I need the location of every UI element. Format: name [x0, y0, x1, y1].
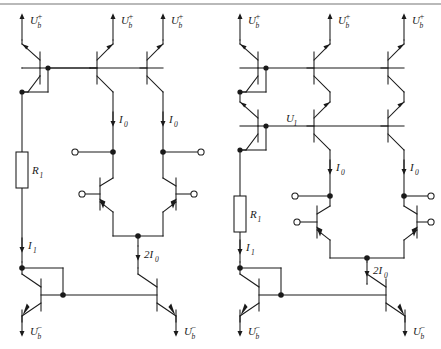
- svg-text:0: 0: [174, 120, 178, 129]
- svg-text:b: b: [256, 21, 260, 30]
- label-r1-left: R 1: [31, 164, 43, 180]
- label-ub-minus-1-left: U b −: [30, 322, 43, 341]
- npn-diffpair-right: [163, 152, 197, 236]
- svg-text:b: b: [256, 332, 260, 341]
- svg-text:R: R: [249, 208, 257, 220]
- svg-text:2I: 2I: [373, 264, 384, 276]
- diode-connection-left: [22, 68, 48, 92]
- svg-text:b: b: [38, 21, 42, 30]
- label-2i0-right: 2I 0: [373, 264, 388, 280]
- svg-text:+: +: [420, 11, 425, 21]
- pnp-output-right-left: [140, 40, 163, 152]
- label-ub-plus-3-right: U b +: [412, 11, 425, 30]
- label-u1-right: U 1: [286, 112, 297, 128]
- svg-text:b: b: [421, 332, 425, 341]
- svg-text:0: 0: [124, 120, 128, 129]
- svg-text:0: 0: [415, 168, 419, 177]
- svg-text:2I: 2I: [144, 248, 155, 260]
- label-2i0-left: 2I 0: [144, 248, 159, 264]
- pnp-cascode-mid-upper-right: [307, 40, 330, 102]
- label-ub-plus-3-left: U b +: [171, 11, 184, 30]
- svg-text:1: 1: [294, 119, 298, 128]
- circuit-diagram-svg: U b + U b + U b + R 1 I 0: [0, 0, 441, 349]
- label-ub-minus-2-left: U b −: [184, 322, 197, 341]
- svg-text:1: 1: [40, 171, 44, 180]
- svg-text:−: −: [38, 322, 43, 332]
- svg-text:1: 1: [258, 215, 262, 224]
- input-terminal-right[interactable]: [428, 219, 434, 225]
- output-terminal-right[interactable]: [428, 193, 434, 199]
- input-terminal-left[interactable]: [79, 191, 85, 197]
- output-terminal-left[interactable]: [292, 193, 298, 199]
- pnp-cascode-mid-lower-right: [307, 102, 330, 196]
- svg-text:b: b: [346, 21, 350, 30]
- npn-output-bottom-right: [367, 274, 405, 322]
- pnp-reference-upper-right: [240, 40, 258, 92]
- svg-text:1: 1: [251, 248, 255, 257]
- diode-connection-lower-right: [240, 126, 266, 150]
- diode-connection-upper-right: [240, 68, 266, 92]
- label-ub-minus-2-right: U b −: [413, 322, 426, 341]
- svg-text:+: +: [179, 11, 184, 21]
- output-terminal-right[interactable]: [198, 149, 204, 155]
- svg-text:b: b: [179, 21, 183, 30]
- svg-text:+: +: [38, 11, 43, 21]
- input-terminal-right[interactable]: [191, 191, 197, 197]
- label-r1-right: R 1: [249, 208, 261, 224]
- svg-text:b: b: [192, 332, 196, 341]
- pnp-reference-left: [22, 40, 40, 92]
- svg-text:b: b: [420, 21, 424, 30]
- supply-rail-arrows-bottom-right: [240, 310, 405, 334]
- supply-rail-arrows-top-right: [240, 16, 404, 40]
- svg-text:1: 1: [33, 246, 37, 255]
- pnp-cascode-right-upper-right: [381, 40, 404, 102]
- resistor-r1-left: [16, 152, 28, 188]
- resistor-r1-right: [234, 196, 246, 232]
- label-ub-plus-1-right: U b +: [248, 11, 261, 30]
- supply-rail-arrows-bottom-left: [22, 310, 176, 334]
- left-circuit: [16, 16, 204, 334]
- label-ub-plus-1-left: U b +: [30, 11, 43, 30]
- label-i1-right: I 1: [245, 241, 255, 257]
- label-i0-right-right: I 0: [409, 161, 419, 177]
- npn-reference-bottom-left: [22, 262, 63, 322]
- label-ub-plus-2-right: U b +: [338, 11, 351, 30]
- pnp-reference-lower-right: [240, 92, 258, 150]
- svg-text:0: 0: [341, 168, 345, 177]
- svg-text:0: 0: [155, 255, 159, 264]
- input-terminal-left[interactable]: [294, 219, 300, 225]
- figure-canvas: U b + U b + U b + R 1 I 0: [0, 0, 441, 349]
- svg-text:−: −: [256, 322, 261, 332]
- svg-text:+: +: [129, 11, 134, 21]
- label-i0-right-left: I 0: [168, 113, 178, 129]
- label-i0-mid-left: I 0: [118, 113, 128, 129]
- output-terminal-left[interactable]: [72, 149, 78, 155]
- label-i1-left: I 1: [27, 239, 37, 255]
- svg-text:+: +: [256, 11, 261, 21]
- svg-text:0: 0: [384, 271, 388, 280]
- label-ub-minus-1-right: U b −: [248, 322, 261, 341]
- right-circuit: [234, 16, 434, 334]
- svg-text:b: b: [38, 332, 42, 341]
- svg-text:−: −: [421, 322, 426, 332]
- svg-text:+: +: [346, 11, 351, 21]
- pnp-cascode-right-lower-right: [381, 102, 404, 196]
- svg-text:−: −: [192, 322, 197, 332]
- svg-text:R: R: [31, 164, 39, 176]
- npn-diffpair-left-right: [294, 196, 330, 258]
- label-ub-plus-2-left: U b +: [121, 11, 134, 30]
- svg-text:b: b: [129, 21, 133, 30]
- label-i0-mid-right: I 0: [335, 161, 345, 177]
- pnp-output-mid-left: [48, 40, 113, 152]
- supply-rail-arrows-top-left: [22, 16, 163, 40]
- npn-reference-bottom-right: [240, 262, 281, 322]
- npn-diffpair-right-right: [404, 196, 434, 258]
- npn-diffpair-left: [79, 152, 113, 236]
